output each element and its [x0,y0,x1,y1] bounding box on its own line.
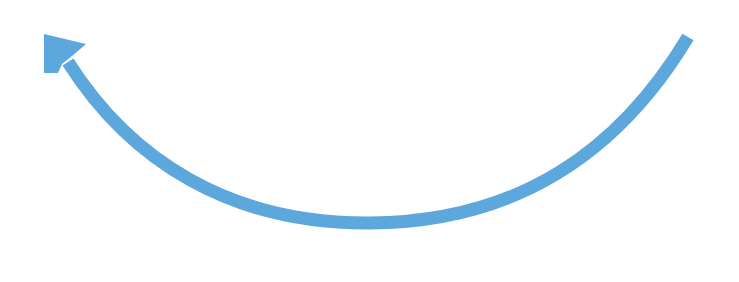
curved-arrow-diagram [0,0,739,282]
curved-arrow-shaft [68,37,688,223]
